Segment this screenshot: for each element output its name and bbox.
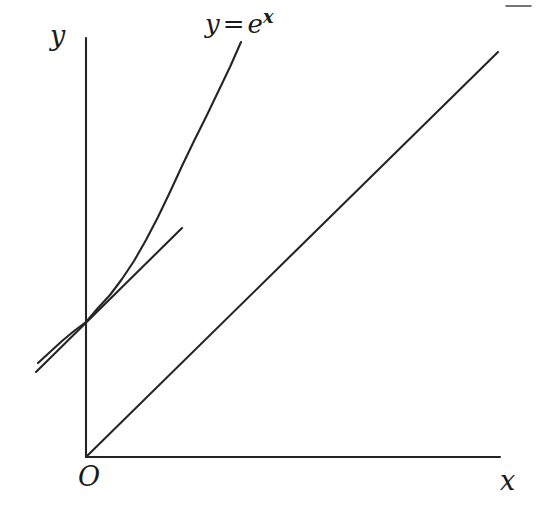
- identity-line-y-equals-x: [86, 52, 498, 457]
- graph-drawing: [0, 0, 537, 514]
- equation-base: e: [248, 9, 263, 39]
- equation-lhs: y: [205, 9, 220, 39]
- y-axis-label: y: [50, 22, 65, 49]
- curve-equation-label: y=ex: [205, 8, 274, 37]
- equation-exponent: x: [263, 6, 274, 27]
- figure-canvas: y x O y=ex: [0, 0, 537, 514]
- exponential-curve: [38, 42, 241, 363]
- origin-label: O: [78, 463, 100, 490]
- equation-equals-sign: =: [220, 9, 248, 39]
- x-axis-label: x: [500, 467, 515, 494]
- tangent-line: [36, 228, 182, 372]
